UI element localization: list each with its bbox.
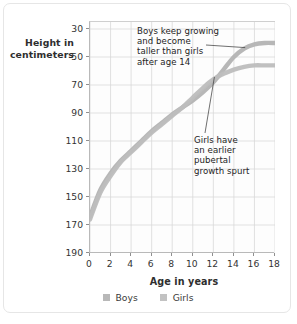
x-tick-mark — [253, 253, 254, 256]
x-tick-mark — [89, 253, 90, 256]
x-tick-label: 14 — [226, 258, 240, 269]
y-tick-label: 50 — [57, 52, 83, 61]
chart-figure: Height in centimeters 190170150130110907… — [3, 3, 291, 313]
annotation-girls-line-2: an earlier — [194, 145, 268, 155]
y-tick-label: 90 — [57, 108, 83, 117]
x-tick-mark — [212, 253, 213, 256]
legend-item-boys: Boys — [103, 292, 138, 303]
x-tick-label: 12 — [205, 258, 219, 269]
x-tick-label: 4 — [123, 258, 137, 269]
y-tick-mark — [86, 112, 89, 113]
x-tick-label: 18 — [267, 258, 281, 269]
x-tick-mark — [233, 253, 234, 256]
y-tick-label: 30 — [57, 24, 83, 33]
x-tick-label: 10 — [185, 258, 199, 269]
legend-label-boys: Boys — [116, 292, 138, 303]
annotation-girls-line-4: growth spurt — [194, 166, 268, 176]
annotation-boys-line-3: taller than girls — [137, 46, 232, 56]
x-tick-label: 8 — [164, 258, 178, 269]
chart-legend: Boys Girls — [4, 292, 292, 303]
x-tick-label: 6 — [144, 258, 158, 269]
annotation-boys: Boys keep growing and become taller than… — [137, 26, 232, 67]
legend-item-girls: Girls — [160, 292, 194, 303]
annotation-boys-line-1: Boys keep growing — [137, 26, 232, 36]
annotation-girls-line-1: Girls have — [194, 135, 268, 145]
legend-label-girls: Girls — [173, 292, 194, 303]
y-tick-label: 170 — [57, 220, 83, 229]
y-tick-mark — [86, 224, 89, 225]
y-tick-mark — [86, 196, 89, 197]
legend-swatch-girls — [160, 294, 167, 301]
x-axis-title: Age in years — [89, 276, 279, 287]
y-tick-label: 110 — [57, 136, 83, 145]
x-tick-label: 2 — [103, 258, 117, 269]
x-axis-line — [89, 252, 274, 253]
x-tick-mark — [151, 253, 152, 256]
y-tick-label: 150 — [57, 192, 83, 201]
y-tick-mark — [86, 28, 89, 29]
y-tick-label: 190 — [57, 248, 83, 257]
annotation-girls-line-3: pubertal — [194, 155, 268, 165]
y-tick-label: 70 — [57, 80, 83, 89]
y-tick-mark — [86, 168, 89, 169]
y-tick-label: 130 — [57, 164, 83, 173]
annotation-girls: Girls have an earlier pubertal growth sp… — [194, 135, 268, 176]
x-tick-mark — [171, 253, 172, 256]
x-tick-mark — [192, 253, 193, 256]
x-tick-label: 16 — [246, 258, 260, 269]
x-tick-label: 0 — [82, 258, 96, 269]
y-tick-mark — [86, 84, 89, 85]
annotation-boys-line-2: and become — [137, 36, 232, 46]
x-tick-mark — [130, 253, 131, 256]
y-tick-mark — [86, 56, 89, 57]
y-tick-mark — [86, 140, 89, 141]
x-tick-mark — [274, 253, 275, 256]
y-axis-title-line-1: Height in — [6, 37, 74, 49]
annotation-boys-line-4: after age 14 — [137, 57, 232, 67]
x-tick-mark — [110, 253, 111, 256]
legend-swatch-boys — [103, 294, 110, 301]
